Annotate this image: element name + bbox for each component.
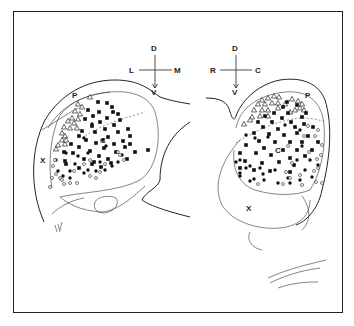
open-circle-mark [301,184,304,187]
open-triangle-mark [257,113,262,118]
filled-square-mark [106,157,110,161]
filled-square-mark [254,151,258,155]
open-circle-mark [55,173,58,176]
open-circle-mark [117,151,120,154]
filled-square-mark [90,162,94,166]
open-triangle-mark [69,115,74,120]
open-circle-mark [63,183,66,186]
open-circle-mark [303,135,306,138]
filled-circle-mark [244,166,247,169]
open-circle-mark [76,182,79,185]
open-triangle-mark [61,124,66,129]
filled-square-mark [302,122,306,126]
filled-square-mark [269,153,273,157]
open-triangle-mark [77,111,82,116]
filled-square-mark [270,120,274,124]
filled-square-mark [262,146,266,150]
open-circle-mark [321,182,324,185]
filled-circle-mark [303,168,306,171]
filled-square-mark [295,148,299,152]
filled-square-mark [300,140,304,144]
open-circle-mark [315,181,318,184]
open-circle-mark [95,177,98,180]
filled-circle-mark [253,136,256,139]
filled-square-mark [77,134,81,138]
filled-circle-mark [56,169,59,172]
filled-circle-mark [86,168,89,171]
open-circle-mark [317,167,320,170]
open-triangle-mark [67,125,72,130]
filled-square-mark [91,114,95,118]
filled-circle-mark [104,144,107,147]
filled-square-mark [256,120,260,124]
filled-circle-mark [298,128,301,131]
ventral-label-right: V [232,88,238,97]
open-triangle-mark [241,121,246,126]
open-circle-mark [317,129,320,132]
filled-square-mark [289,120,293,124]
filled-square-mark [282,133,286,137]
open-circle-mark [257,183,260,186]
filled-circle-mark [266,135,269,138]
filled-square-mark [146,148,150,152]
open-triangle-mark [276,94,281,99]
open-circle-mark [119,154,122,157]
filled-circle-mark [244,133,247,136]
filled-circle-mark [298,178,301,181]
open-triangle-mark [265,107,270,112]
filled-square-mark [272,111,276,115]
filled-circle-mark [82,171,85,174]
filled-square-mark [300,115,304,119]
filled-square-mark [80,129,84,133]
open-circle-mark [299,174,302,177]
dorsal-label-right: D [232,44,238,53]
open-triangle-mark [251,107,256,112]
filled-square-mark [261,125,265,129]
filled-square-mark [98,120,102,124]
filled-square-mark [252,168,256,172]
open-circle-mark [282,183,285,186]
filled-circle-mark [310,175,313,178]
filled-square-mark [69,142,73,146]
filled-square-mark [286,111,290,115]
filled-circle-mark [308,158,311,161]
filled-square-mark [99,165,103,169]
filled-square-mark [105,116,109,120]
dorsal-label-left: D [151,44,157,53]
open-circle-mark [69,182,72,185]
lateral-label: L [129,66,134,75]
filled-square-mark [96,100,100,104]
filled-square-mark [112,142,116,146]
filled-circle-mark [90,122,93,125]
filled-circle-mark [110,164,113,167]
filled-square-mark [93,130,97,134]
filled-circle-mark [248,164,251,167]
filled-square-mark [64,162,68,166]
filled-square-mark [116,112,120,116]
filled-square-mark [103,127,107,131]
region-x-right: X [246,204,252,213]
filled-square-mark [97,154,101,158]
region-p-left: P [72,91,78,100]
filled-square-mark [94,141,98,145]
caudal-label: C [255,66,261,75]
filled-square-mark [244,143,248,147]
filled-square-mark [280,116,284,120]
open-triangle-mark [275,105,280,110]
filled-square-mark [295,103,299,107]
filled-square-mark [310,148,314,152]
filled-square-mark [263,114,267,118]
filled-circle-mark [238,158,241,161]
open-triangle-mark [259,107,264,112]
filled-square-mark [267,132,271,136]
open-circle-mark [89,159,92,162]
filled-circle-mark [61,174,64,177]
open-triangle-mark [259,97,264,102]
open-triangle-mark [292,107,297,112]
open-triangle-mark [269,100,274,105]
rostral-label: R [210,66,216,75]
filled-circle-mark [316,163,319,166]
open-circle-mark [291,162,294,165]
filled-circle-mark [273,168,276,171]
filled-circle-mark [288,181,291,184]
